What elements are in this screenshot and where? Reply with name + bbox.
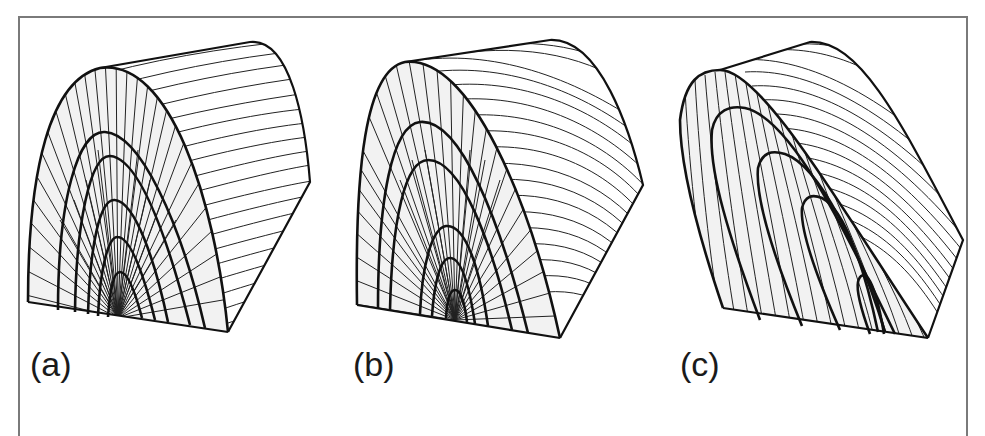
panel-c-label: (c): [680, 347, 720, 381]
panel-c-log: [680, 42, 970, 372]
panel-a-log: [6, 38, 318, 342]
panel-a-label: (a): [30, 347, 72, 381]
panel-b-log: [330, 38, 650, 364]
panel-b-label: (b): [353, 347, 395, 381]
